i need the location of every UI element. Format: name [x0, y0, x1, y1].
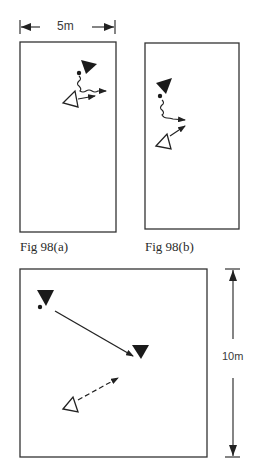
attacker-end-filled-triangle-icon: [132, 345, 149, 359]
defender-open-triangle-icon: [63, 397, 78, 412]
scale-10m-dimension: [225, 269, 240, 457]
defender-run-arrow: [170, 126, 185, 136]
caption-fig98a: Fig 98(a): [20, 239, 68, 255]
dribble-wavy-arrow: [161, 100, 186, 120]
ball-dot-icon: [77, 71, 81, 75]
defender-dashed-run-arrow: [78, 378, 118, 400]
arrow-right-icon: [104, 23, 114, 31]
arrow-left-icon: [21, 23, 31, 31]
scale-5m-label: 5m: [57, 19, 74, 33]
ball-dot-icon: [158, 94, 162, 98]
defender-open-triangle-icon: [63, 91, 78, 107]
arrow-down-icon: [229, 445, 237, 456]
arrow-up-icon: [229, 270, 237, 281]
attacker-start-filled-triangle-icon: [37, 290, 54, 306]
scale-10m-label: 10m: [222, 350, 243, 362]
ball-dot-icon: [38, 305, 42, 309]
attacker-run-arrow: [55, 311, 133, 356]
defender-open-triangle-icon: [156, 134, 171, 149]
panel-fig98a: [20, 42, 116, 232]
panel-fig98c: [20, 269, 207, 457]
diagram-canvas: [0, 0, 256, 467]
attacker-filled-triangle-icon: [156, 78, 172, 94]
defender-run-arrow: [78, 96, 95, 99]
attacker-filled-triangle-icon: [81, 60, 97, 74]
panel-fig98b: [145, 43, 239, 229]
dribble-wavy-arrow: [78, 76, 107, 92]
caption-fig98b: Fig 98(b): [145, 239, 194, 255]
